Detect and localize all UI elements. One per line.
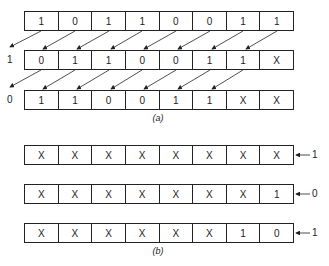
bit-cell: X [227, 185, 261, 203]
shifted-in-bit-1: 1 [312, 149, 318, 160]
shifted-out-bit-2: 0 [7, 94, 13, 105]
bit-cell: X [260, 91, 293, 109]
bit-cell: 1 [25, 91, 59, 109]
bit-cell: X [25, 185, 59, 203]
bit-cell: X [160, 224, 194, 242]
bit-cell: X [92, 185, 126, 203]
bit-cell: 1 [126, 12, 160, 30]
bit-cell: X [227, 91, 261, 109]
register-b-2: X X X X X X X 1 [24, 184, 294, 204]
bit-cell: 0 [193, 12, 227, 30]
bit-cell: X [260, 146, 293, 164]
bit-cell: 0 [59, 12, 93, 30]
register-a-3: 1 1 0 0 1 1 X X [24, 90, 294, 110]
bit-cell: X [126, 146, 160, 164]
bit-cell: 0 [92, 91, 126, 109]
bit-cell: X [193, 185, 227, 203]
caption-b: (b) [138, 246, 178, 256]
shifted-in-bit-2: 0 [312, 188, 318, 199]
bit-cell: 1 [160, 91, 194, 109]
register-a-1: 1 0 1 1 0 0 1 1 [24, 11, 294, 31]
bit-cell: 1 [25, 12, 59, 30]
bit-cell: 1 [227, 224, 261, 242]
bit-cell: 1 [193, 91, 227, 109]
bit-cell: X [92, 146, 126, 164]
bit-cell: 1 [260, 185, 293, 203]
shifted-in-bit-3: 1 [312, 227, 318, 238]
bit-cell: X [260, 51, 293, 69]
bit-cell: 1 [227, 12, 261, 30]
left-shift-arrows-1 [10, 31, 277, 49]
bit-cell: X [160, 146, 194, 164]
bit-cell: X [92, 224, 126, 242]
serial-input-arrows [296, 155, 310, 233]
bit-cell: 0 [160, 12, 194, 30]
bit-cell: 1 [92, 12, 126, 30]
bit-cell: 0 [126, 91, 160, 109]
bit-cell: X [126, 185, 160, 203]
bit-cell: X [227, 146, 261, 164]
bit-cell: X [59, 185, 93, 203]
bit-cell: X [193, 224, 227, 242]
bit-cell: X [126, 224, 160, 242]
bit-cell: X [25, 146, 59, 164]
bit-cell: 0 [160, 51, 194, 69]
bit-cell: 0 [25, 51, 59, 69]
bit-cell: 1 [260, 12, 293, 30]
bit-cell: 1 [92, 51, 126, 69]
bit-cell: 0 [260, 224, 293, 242]
caption-a: (a) [138, 113, 178, 123]
bit-cell: 1 [59, 51, 93, 69]
bit-cell: X [193, 146, 227, 164]
bit-cell: X [25, 224, 59, 242]
bit-cell: X [59, 224, 93, 242]
bit-cell: X [160, 185, 194, 203]
register-b-3: X X X X X X 1 0 [24, 223, 294, 243]
register-a-2: 0 1 1 0 0 1 1 X [24, 50, 294, 70]
shifted-out-bit-1: 1 [7, 54, 13, 65]
register-b-1: X X X X X X X X [24, 145, 294, 165]
bit-cell: X [59, 146, 93, 164]
bit-cell: 1 [193, 51, 227, 69]
bit-cell: 1 [59, 91, 93, 109]
left-shift-arrows-2 [10, 70, 243, 89]
bit-cell: 1 [227, 51, 261, 69]
bit-cell: 0 [126, 51, 160, 69]
